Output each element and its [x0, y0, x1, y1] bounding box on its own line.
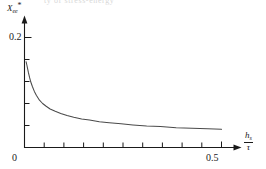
x-tick-label-0-5: 0.5 [206, 152, 219, 163]
y-axis-label: Xee* [7, 2, 21, 14]
y-tick-label-0-2: 0.2 [9, 31, 22, 42]
x-axis-ticks [44, 142, 221, 148]
x-axis [25, 145, 242, 151]
plot-canvas [0, 0, 266, 169]
x-axis-label-denominator: τ [244, 143, 253, 152]
origin-label: 0 [12, 152, 17, 163]
x-axis-label: hs τ [244, 131, 253, 153]
x-axis-label-numerator: hs [244, 131, 253, 141]
y-axis-label-superscript: * [17, 1, 21, 10]
figure-container: ty of stress-energy [0, 0, 266, 169]
x-axis-label-numerator-subscript: s [250, 135, 252, 141]
data-curve [26, 62, 221, 130]
